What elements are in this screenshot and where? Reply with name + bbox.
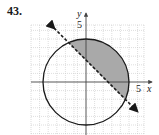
y-tick-label: 5 <box>77 19 82 30</box>
graph: y 5 5 x <box>0 0 159 135</box>
x-axis-label: x <box>146 83 152 94</box>
x-tick-label: 5 <box>136 83 141 94</box>
y-axis-label: y <box>76 8 82 19</box>
